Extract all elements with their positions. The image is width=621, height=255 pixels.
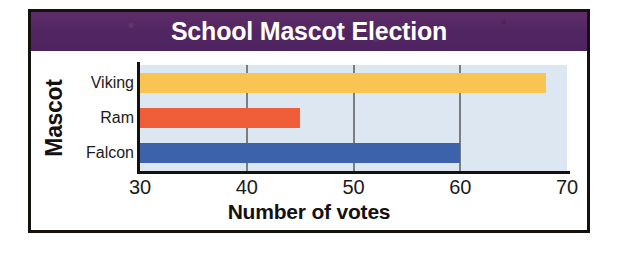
x-axis-title: Number of votes bbox=[31, 200, 587, 224]
x-tick-label-50: 50 bbox=[342, 176, 364, 199]
bar-viking bbox=[140, 73, 546, 93]
x-tick-label-60: 60 bbox=[449, 176, 471, 199]
category-label-viking: Viking bbox=[34, 75, 134, 91]
x-tick-label-40: 40 bbox=[236, 176, 258, 199]
x-axis-tick-labels: 3040506070 bbox=[140, 176, 567, 200]
category-label-falcon: Falcon bbox=[34, 145, 134, 161]
x-tick-label-70: 70 bbox=[556, 176, 578, 199]
chart-title-bar: School Mascot Election bbox=[31, 12, 587, 51]
x-tick-label-30: 30 bbox=[129, 176, 151, 199]
chart-figure: School Mascot Election Mascot VikingRamF… bbox=[28, 9, 590, 233]
x-axis-line bbox=[137, 171, 570, 174]
category-label-ram: Ram bbox=[34, 110, 134, 126]
chart-title: School Mascot Election bbox=[171, 17, 447, 46]
category-axis-labels: VikingRamFalcon bbox=[31, 65, 134, 171]
bar-falcon bbox=[140, 143, 460, 163]
plot-area bbox=[140, 65, 567, 171]
bar-ram bbox=[140, 108, 300, 128]
